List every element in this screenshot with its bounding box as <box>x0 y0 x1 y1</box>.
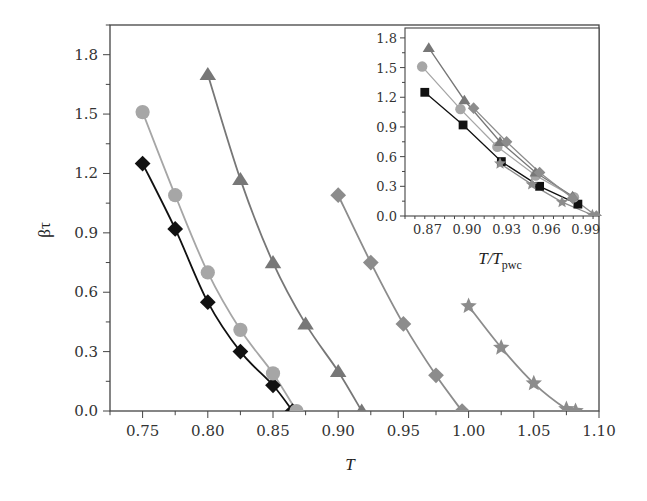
inset-y-tick-label: 1.2 <box>376 90 397 105</box>
circle-marker <box>168 188 182 202</box>
circle-marker <box>455 104 465 114</box>
square-marker <box>459 121 468 130</box>
main-x-tick-label: 0.85 <box>256 422 289 440</box>
inset-y-tick-label: 0.6 <box>376 150 397 165</box>
main-y-tick-label: 0.9 <box>74 224 98 242</box>
circle-marker <box>233 323 247 337</box>
square-marker <box>420 88 429 97</box>
main-y-tick-label: 1.8 <box>74 46 98 64</box>
main-y-tick-label: 0.0 <box>74 402 98 420</box>
main-y-tick-label: 1.5 <box>74 105 98 123</box>
inset-y-tick-label: 1.5 <box>376 61 397 76</box>
inset-x-tick-label: 0.87 <box>413 222 442 237</box>
chart-canvas: 0.750.800.850.900.951.001.051.100.00.30.… <box>0 0 647 501</box>
inset-x-tick-label: 0.90 <box>453 222 482 237</box>
inset-plot: 0.870.900.930.960.990.00.30.60.91.21.51.… <box>376 28 602 237</box>
circle-marker <box>417 61 427 71</box>
circle-marker <box>266 366 280 380</box>
inset-y-tick-label: 1.8 <box>376 31 397 46</box>
main-x-tick-label: 1.05 <box>517 422 550 440</box>
inset-x-tick-label: 0.93 <box>492 222 521 237</box>
main-y-tick-label: 0.6 <box>74 283 98 301</box>
main-x-tick-label: 1.10 <box>582 422 615 440</box>
circle-marker <box>135 105 149 119</box>
main-x-tick-label: 0.95 <box>387 422 420 440</box>
main-x-tick-label: 0.80 <box>191 422 224 440</box>
x-axis-label: T <box>345 455 356 474</box>
circle-marker <box>289 404 303 418</box>
inset-x-tick-label: 0.99 <box>571 222 600 237</box>
main-x-tick-label: 1.00 <box>452 422 485 440</box>
main-y-tick-label: 0.3 <box>74 343 98 361</box>
main-x-tick-label: 0.75 <box>126 422 159 440</box>
y-axis-label: βτ <box>35 222 54 238</box>
main-y-tick-label: 1.2 <box>74 164 98 182</box>
inset-y-tick-label: 0.0 <box>376 209 397 224</box>
inset-x-tick-label: 0.96 <box>532 222 561 237</box>
inset-y-tick-label: 0.3 <box>376 179 397 194</box>
inset-y-tick-label: 0.9 <box>376 120 397 135</box>
main-x-tick-label: 0.90 <box>321 422 354 440</box>
circle-marker <box>201 265 215 279</box>
